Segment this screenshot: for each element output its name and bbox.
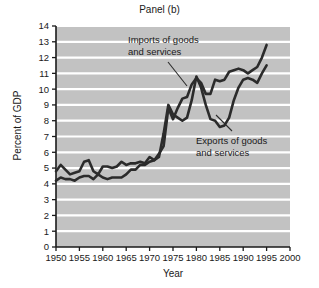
exports-annotation-line1: Exports of goods — [196, 135, 268, 146]
x-tick-label: 1955 — [69, 252, 90, 263]
y-tick-label: 3 — [44, 194, 49, 205]
x-tick-label: 2000 — [279, 252, 300, 263]
y-tick-label: 1 — [44, 226, 49, 237]
plot-canvas: 01234567891011121314 1950195519601965197… — [0, 0, 319, 288]
x-tick-label: 1965 — [116, 252, 137, 263]
x-axis-ticks: 1950195519601965197019751980198519901995… — [45, 247, 300, 263]
y-tick-label: 4 — [44, 178, 49, 189]
x-tick-label: 1990 — [233, 252, 254, 263]
imports-annotation-line2: and services — [128, 46, 182, 57]
y-tick-label: 6 — [44, 147, 49, 158]
y-tick-label: 7 — [44, 131, 49, 142]
y-tick-label: 8 — [44, 115, 49, 126]
x-tick-label: 1950 — [45, 252, 66, 263]
x-tick-label: 1970 — [139, 252, 160, 263]
y-tick-label: 2 — [44, 210, 49, 221]
x-tick-label: 1975 — [162, 252, 183, 263]
exports-annotation-line2: and services — [196, 147, 250, 158]
y-tick-label: 13 — [38, 36, 49, 47]
y-tick-label: 14 — [38, 20, 49, 31]
imports-annotation-line1: Imports of goods — [128, 34, 199, 45]
x-axis-label: Year — [56, 268, 290, 279]
y-axis-ticks: 01234567891011121314 — [38, 20, 56, 252]
y-tick-label: 12 — [38, 52, 49, 63]
x-tick-label: 1980 — [186, 252, 207, 263]
x-tick-label: 1960 — [92, 252, 113, 263]
y-tick-label: 0 — [44, 241, 49, 252]
y-tick-label: 10 — [38, 84, 49, 95]
y-tick-label: 5 — [44, 162, 49, 173]
x-tick-label: 1995 — [256, 252, 277, 263]
x-tick-label: 1985 — [209, 252, 230, 263]
chart-figure: Panel (b) Percent of GDP 012345678910111… — [0, 0, 319, 288]
y-tick-label: 9 — [44, 99, 49, 110]
y-tick-label: 11 — [39, 68, 49, 79]
